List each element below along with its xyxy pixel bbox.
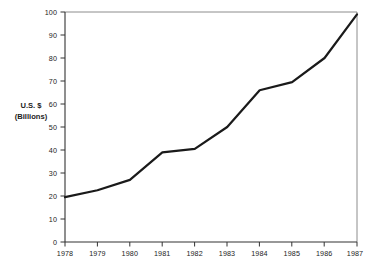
x-tick-label: 1980 bbox=[122, 249, 138, 258]
y-axis-title: U.S. $ (Billions) bbox=[15, 101, 48, 121]
x-axis-ticks bbox=[65, 242, 357, 247]
x-tick-label: 1982 bbox=[186, 249, 202, 258]
x-tick-label: 1979 bbox=[89, 249, 105, 258]
x-tick-label: 1984 bbox=[251, 249, 267, 258]
y-tick-label: 60 bbox=[49, 100, 57, 109]
y-tick-label: 100 bbox=[45, 8, 57, 17]
x-tick-label: 1978 bbox=[57, 249, 73, 258]
x-tick-label: 1985 bbox=[284, 249, 300, 258]
line-chart: 100 90 80 70 60 50 40 30 20 10 0 bbox=[0, 0, 387, 263]
y-axis-tick-labels: 100 90 80 70 60 50 40 30 20 10 0 bbox=[45, 8, 57, 247]
x-tick-label: 1986 bbox=[316, 249, 332, 258]
x-axis-tick-labels: 1978 1979 1980 1981 1982 1983 1984 1985 … bbox=[57, 249, 363, 258]
y-tick-label: 50 bbox=[49, 123, 57, 132]
x-tick-label: 1987 bbox=[347, 249, 363, 258]
plot-background bbox=[65, 12, 357, 242]
chart-figure: 100 90 80 70 60 50 40 30 20 10 0 bbox=[0, 0, 387, 263]
x-tick-label: 1981 bbox=[154, 249, 170, 258]
y-tick-label: 80 bbox=[49, 54, 57, 63]
y-axis-title-line2: (Billions) bbox=[15, 112, 48, 121]
y-tick-label: 90 bbox=[49, 31, 57, 40]
y-tick-label: 70 bbox=[49, 77, 57, 86]
y-tick-label: 40 bbox=[49, 146, 57, 155]
y-tick-label: 30 bbox=[49, 169, 57, 178]
y-tick-label: 0 bbox=[53, 238, 57, 247]
y-axis-title-line1: U.S. $ bbox=[20, 101, 42, 110]
y-axis-ticks bbox=[61, 12, 66, 242]
y-tick-label: 10 bbox=[49, 215, 57, 224]
y-tick-label: 20 bbox=[49, 192, 57, 201]
x-tick-label: 1983 bbox=[219, 249, 235, 258]
